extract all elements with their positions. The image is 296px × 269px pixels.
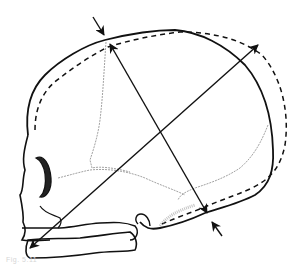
lambdoid-suture xyxy=(178,125,268,200)
squamosal-suture xyxy=(58,169,185,195)
pointer-arrow-bottom xyxy=(212,222,222,236)
jaw-detail xyxy=(40,206,61,228)
alternate-outline xyxy=(35,32,286,224)
diameter-arrow-2 xyxy=(110,44,207,213)
orbit xyxy=(36,157,51,197)
mandible xyxy=(26,232,136,258)
coronal-suture xyxy=(90,42,130,172)
skull-outline xyxy=(27,30,273,229)
skull-diagram xyxy=(0,0,296,269)
pointer-arrow-top xyxy=(93,17,104,35)
figure-caption: Fig. 5.11 xyxy=(6,256,37,263)
